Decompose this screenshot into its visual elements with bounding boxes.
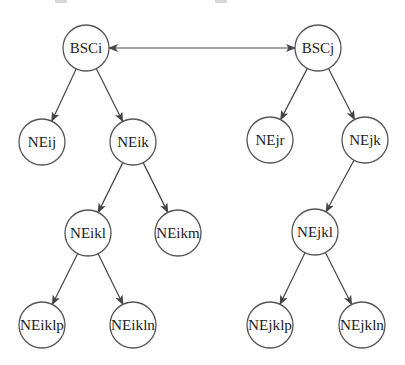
edge-bsci-to-neij [52,69,76,121]
node-label: NEjkln [340,317,384,333]
node-label: NEjk [349,132,381,148]
node-nejr: NEjr [247,117,293,163]
node-label: NEikm [156,225,200,241]
network-tree-diagram: BSCiBSCjNEijNEikNEjrNEjkNEiklNEikmNEjklN… [0,0,405,365]
node-label: NEiklp [20,317,64,333]
node-label: NEikl [70,225,106,241]
node-neikm: NEikm [155,210,201,256]
edge-neik-to-neikl [98,163,123,213]
node-label: NEik [117,134,149,150]
edge-nejkl-to-nejklp [280,253,305,305]
edge-bsci-to-neik [96,69,122,122]
edge-bscj-to-nejk [328,68,354,119]
node-nejklp: NEjklp [247,302,293,348]
node-label: NEjkl [297,224,333,240]
node-nejkl: NEjkl [292,209,338,255]
node-nejkln: NEjkln [339,302,385,348]
node-bscj: BSCj [295,25,341,71]
edge-bscj-to-nejr [281,68,308,119]
node-label: BSCi [70,40,103,56]
node-neik: NEik [110,119,156,165]
node-neij: NEij [19,119,65,165]
node-label: NEikln [111,317,155,333]
edge-neikl-to-neiklp [52,254,77,305]
node-label: BSCj [302,40,335,56]
node-label: NEij [28,134,56,150]
node-label: NEjr [255,132,284,148]
node-bsci: BSCi [63,25,109,71]
node-neiklp: NEiklp [19,302,65,348]
node-label: NEjklp [248,317,292,333]
edge-nejk-to-nejkl [326,160,354,212]
edges-layer [52,48,355,304]
node-neikln: NEikln [110,302,156,348]
edge-neikl-to-neikln [98,254,123,305]
node-nejk: NEjk [342,117,388,163]
edge-neik-to-neikm [143,163,168,213]
node-neikl: NEikl [65,210,111,256]
edge-nejkl-to-nejkln [325,253,351,305]
